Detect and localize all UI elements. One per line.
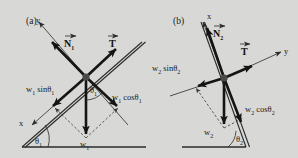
weight-cos-component-vector-b (224, 78, 241, 122)
panel-b-axis-y-label: y (284, 46, 289, 56)
base-theta-sub-a: 1 (39, 142, 42, 148)
angle-arc-base-b (228, 131, 236, 147)
panel-a-tension-label: T (109, 38, 116, 49)
panel-a-label: (a) (26, 16, 37, 27)
apex-theta-sub-a: 1 (94, 91, 97, 97)
junction-node-b (220, 74, 227, 81)
sin-sub2-b: 2 (177, 69, 180, 75)
panel-a-normal-label-group: N1 (64, 36, 76, 51)
panel-b-tension-label-group: T (240, 44, 250, 57)
weight-sub-a: 1 (86, 145, 89, 151)
sin-rest-b: sinθ (161, 63, 177, 73)
sin-rest-a: sinθ (35, 84, 51, 94)
figure-canvas: (a) y x N1 T w1 sinθ1 w1 cosθ1 (0, 0, 298, 158)
panel-a-tension-label-group: T (108, 36, 118, 49)
panel-a-sin-component-label: w1 sinθ1 (26, 84, 54, 96)
weight-sin-component-vector-a (53, 77, 86, 106)
panel-b: (b) x y N2 T w2 sinθ2 w2 cosθ2 (152, 11, 289, 147)
panel-a-normal-sub: 1 (71, 45, 74, 51)
sin-sub2-a: 1 (51, 90, 54, 96)
weight-sub-b: 2 (210, 133, 213, 139)
panel-b-tension-label: T (241, 46, 248, 57)
panel-b-normal-label-group: N2 (213, 26, 225, 41)
tension-vector-b (224, 66, 252, 78)
svg-text:N1: N1 (64, 38, 74, 51)
panel-a-base-angle-label: θ1 (35, 136, 42, 148)
base-theta-sub-b: 2 (240, 140, 243, 146)
panel-b-label: (b) (173, 16, 184, 27)
cos-sub2-b: 2 (272, 110, 275, 116)
panel-b-sin-component-label: w2 sinθ2 (152, 63, 180, 75)
panel-a-weight-label: w1 (80, 139, 89, 151)
panel-a: (a) y x N1 T w1 sinθ1 w1 cosθ1 (19, 15, 146, 151)
weight-sin-component-vector-b (198, 78, 224, 86)
panel-b-normal-sub: 2 (220, 35, 223, 41)
physics-free-body-figure: (a) y x N1 T w1 sinθ1 w1 cosθ1 (0, 0, 298, 158)
junction-node-a (82, 73, 89, 80)
cos-rest-a: cosθ (121, 92, 139, 102)
panel-a-cos-component-label: w1 cosθ1 (112, 92, 142, 104)
cos-sub2-a: 1 (139, 98, 142, 104)
angle-arc-base-a (45, 125, 49, 147)
panel-a-axis-x-label: x (19, 118, 24, 128)
cos-rest-b: cosθ (254, 104, 272, 114)
dashed-sin-projection-b (196, 88, 224, 128)
panel-b-axis-x-label: x (207, 11, 212, 21)
panel-b-weight-label: w2 (204, 127, 213, 139)
tension-vector-a (86, 49, 116, 77)
svg-text:N2: N2 (213, 28, 223, 41)
dashed-sin-projection-a (55, 108, 86, 138)
panel-b-cos-component-label: w2 cosθ2 (245, 104, 275, 116)
dashed-cos-projection-a (86, 108, 118, 138)
